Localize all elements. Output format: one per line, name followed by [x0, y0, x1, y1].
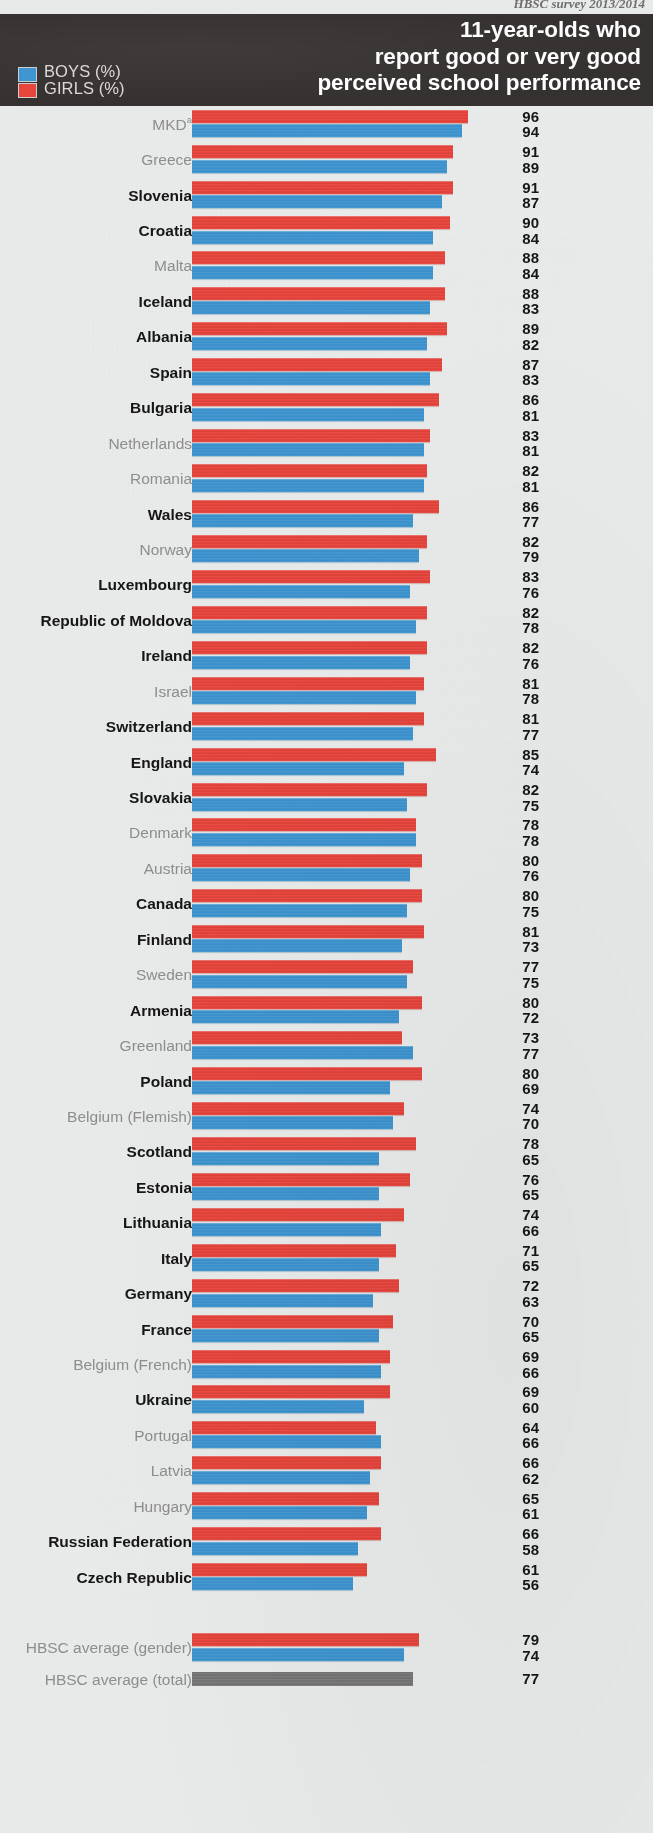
country-label: Malta: [154, 257, 192, 274]
country-row: Croatia9084: [0, 212, 653, 247]
country-row: Iceland8883: [0, 283, 653, 318]
country-row: Armenia8072: [0, 992, 653, 1027]
value-labels: 7065: [497, 1313, 539, 1344]
country-row: Poland8069: [0, 1063, 653, 1098]
bar-group: [192, 748, 492, 776]
bar-boys: [192, 514, 413, 527]
country-label: Sweden: [136, 966, 192, 983]
bar-girls: [192, 1209, 404, 1222]
bar-girls: [192, 1067, 422, 1080]
value-girls: 82: [497, 640, 539, 656]
bar-girls: [192, 216, 450, 229]
bar-boys: [192, 940, 402, 953]
bar-boys: [192, 691, 416, 704]
value-labels: 8177: [497, 711, 539, 742]
country-label: Croatia: [139, 222, 192, 239]
value-boys: 65: [497, 1187, 539, 1203]
value-girls: 74: [497, 1207, 539, 1223]
value-girls: 81: [497, 923, 539, 939]
country-row: Bulgaria8681: [0, 390, 653, 425]
country-label: Finland: [137, 930, 192, 947]
bar-boys: [192, 1258, 379, 1271]
value-total: 77: [497, 1672, 539, 1688]
country-label: Republic of Moldova: [40, 611, 192, 628]
value-labels: 7466: [497, 1207, 539, 1238]
value-girls: 87: [497, 356, 539, 372]
country-label: France: [141, 1320, 192, 1337]
bar-girls: [192, 287, 445, 300]
bar-group: [192, 1031, 492, 1059]
value-labels: 8681: [497, 392, 539, 423]
bar-group: [192, 145, 492, 173]
running-head: HBSC survey 2013/2014: [514, 0, 645, 14]
value-labels: 7878: [497, 817, 539, 848]
country-label: Greenland: [120, 1037, 192, 1054]
bar-girls: [192, 1421, 376, 1434]
country-label: England: [131, 753, 192, 770]
average-row-label: HBSC average (total): [45, 1671, 192, 1688]
value-girls: 86: [497, 498, 539, 514]
value-boys: 65: [497, 1151, 539, 1167]
country-row: Republic of Moldova8278: [0, 602, 653, 637]
bar-group: [192, 216, 492, 244]
country-label: Armenia: [130, 1001, 192, 1018]
value-girls: 81: [497, 711, 539, 727]
bar-girls: [192, 925, 424, 938]
value-labels: 8075: [497, 888, 539, 919]
country-row: Latvia6662: [0, 1453, 653, 1488]
bar-group: [192, 1315, 492, 1343]
country-row: Lithuania7466: [0, 1205, 653, 1240]
bar-group: [192, 110, 492, 138]
bar-girls: [192, 393, 439, 406]
chart-title-line-2: report good or very good: [317, 44, 641, 71]
bar-girls: [192, 571, 430, 584]
bar-boys: [192, 195, 442, 208]
country-row: Norway8279: [0, 531, 653, 566]
bar-group: [192, 642, 492, 670]
bar-girls: [192, 358, 442, 371]
average-row-total: HBSC average (total)77: [0, 1666, 653, 1692]
bar-boys: [192, 1436, 381, 1449]
bar-boys: [192, 1400, 364, 1413]
country-row: Slovakia8275: [0, 779, 653, 814]
bar-boys: [192, 266, 433, 279]
value-labels: 6960: [497, 1384, 539, 1415]
bar-boys: [192, 1365, 381, 1378]
value-boys: 74: [497, 1647, 539, 1663]
value-labels: 8275: [497, 782, 539, 813]
value-girls: 69: [497, 1349, 539, 1365]
value-boys: 82: [497, 336, 539, 352]
bar-group: [192, 1173, 492, 1201]
country-label: Israel: [154, 682, 192, 699]
value-girls: 74: [497, 1100, 539, 1116]
value-girls: 73: [497, 1030, 539, 1046]
value-boys: 77: [497, 726, 539, 742]
country-row: Spain8783: [0, 354, 653, 389]
value-boys: 75: [497, 903, 539, 919]
bar-girls: [192, 606, 427, 619]
value-girls: 91: [497, 179, 539, 195]
value-girls: 71: [497, 1242, 539, 1258]
bar-boys: [192, 1294, 373, 1307]
bar-group: [192, 1209, 492, 1237]
value-girls: 64: [497, 1419, 539, 1435]
country-label: Wales: [148, 505, 192, 522]
country-row: Ireland8276: [0, 638, 653, 673]
value-boys: 94: [497, 124, 539, 140]
value-boys: 76: [497, 584, 539, 600]
country-label: Slovenia: [128, 186, 192, 203]
value-labels: 6156: [497, 1561, 539, 1592]
bar-boys: [192, 1188, 379, 1201]
country-label: Iceland: [139, 292, 192, 309]
country-label: Russian Federation: [48, 1533, 192, 1550]
value-labels: 8076: [497, 852, 539, 883]
bar-boys: [192, 1152, 379, 1165]
value-labels: 8178: [497, 675, 539, 706]
value-girls: 82: [497, 782, 539, 798]
bar-group: [192, 252, 492, 280]
country-row: Switzerland8177: [0, 708, 653, 743]
country-row: Sweden7775: [0, 957, 653, 992]
value-girls: 83: [497, 427, 539, 443]
bar-boys: [192, 160, 447, 173]
value-boys: 65: [497, 1329, 539, 1345]
